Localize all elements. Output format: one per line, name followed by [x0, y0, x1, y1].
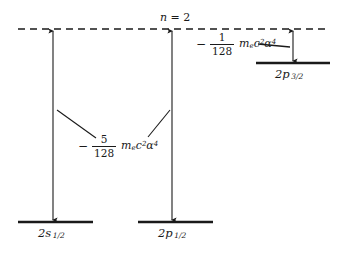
- level-label-2p12: 2p1/2: [158, 228, 186, 240]
- reference-line-label: n = 2: [160, 12, 190, 23]
- level-term: 2s: [38, 226, 51, 240]
- minus-sign: −: [78, 140, 88, 152]
- shift-formula-2p32: − 1 128 mec2α4: [196, 32, 276, 56]
- alpha-symbol: α: [264, 37, 271, 50]
- level-term: 2p: [158, 226, 173, 240]
- alpha-exponent: 4: [272, 37, 276, 45]
- mec2alpha4-term: mec2α4: [121, 140, 158, 152]
- level-label-2p32: 2p3/2: [275, 69, 303, 81]
- energy-level-diagram: n = 2 − 1 128 mec2α4 − 5 128 mec2α4 2s1/…: [0, 0, 347, 254]
- mass-symbol: m: [239, 37, 249, 50]
- mass-symbol: m: [121, 139, 131, 152]
- fraction-1-128: 1 128: [210, 32, 234, 56]
- level-subscript: 3/2: [291, 72, 303, 81]
- fraction-denominator: 128: [210, 45, 234, 57]
- diagram-canvas: [0, 0, 347, 254]
- alpha-exponent: 4: [154, 139, 158, 147]
- equals-symbol: =: [171, 11, 180, 24]
- fraction-5-128: 5 128: [92, 134, 116, 158]
- level-term: 2p: [275, 67, 290, 81]
- level-subscript: 1/2: [53, 231, 65, 240]
- shift-formula-2s12-2p12: − 5 128 mec2α4: [78, 134, 158, 158]
- fraction-numerator: 5: [99, 134, 110, 146]
- fraction-numerator: 1: [217, 32, 228, 44]
- leader-line-right: [148, 110, 170, 137]
- level-label-2s12: 2s1/2: [38, 228, 65, 240]
- mec2alpha4-term: mec2α4: [239, 38, 276, 50]
- alpha-symbol: α: [146, 139, 153, 152]
- n-value: 2: [183, 11, 190, 24]
- fraction-denominator: 128: [92, 147, 116, 159]
- level-subscript: 1/2: [174, 231, 186, 240]
- minus-sign: −: [196, 38, 206, 50]
